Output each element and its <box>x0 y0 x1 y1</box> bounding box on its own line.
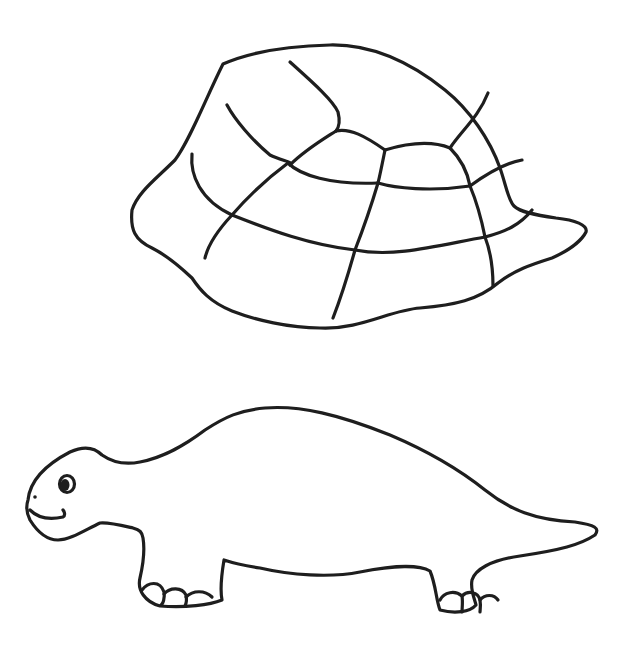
front-foot-toe <box>164 589 186 606</box>
back-foot-toe <box>440 593 462 612</box>
smile <box>30 510 65 518</box>
coloring-page: Turtle shell and turtle body coloring pa… <box>0 0 634 649</box>
shell-scute-line <box>470 160 522 186</box>
shell-scute-line <box>485 237 493 286</box>
shell-scute-line <box>192 154 232 215</box>
shell-scute-line <box>290 62 339 131</box>
back-foot-toe <box>480 596 498 601</box>
shell-scute-line <box>450 148 470 186</box>
front-foot-toe <box>186 592 212 597</box>
shell-scute-line <box>290 131 336 165</box>
shell-scute-line <box>336 130 385 150</box>
body-outline <box>27 407 597 612</box>
pupil <box>61 479 70 491</box>
shell-scute-line <box>485 210 532 237</box>
shell-scute-line <box>355 237 485 253</box>
shell-scute-line <box>378 183 470 189</box>
shell-scute-line <box>288 163 378 183</box>
shell-scute-line <box>470 186 485 237</box>
shell-scute-line <box>232 163 288 215</box>
shell-scute-line <box>333 250 355 318</box>
shell-scute-line <box>378 150 385 183</box>
turtle-body <box>27 407 597 612</box>
shell-scute-line <box>385 144 450 150</box>
shell-scute-line <box>205 215 232 258</box>
shell-scute-line <box>227 105 290 163</box>
shell-scute-line <box>355 183 378 250</box>
turtle-shell <box>132 45 587 328</box>
drawing-canvas <box>0 0 634 649</box>
shell-scute-line <box>232 215 355 250</box>
nostril <box>33 495 37 499</box>
